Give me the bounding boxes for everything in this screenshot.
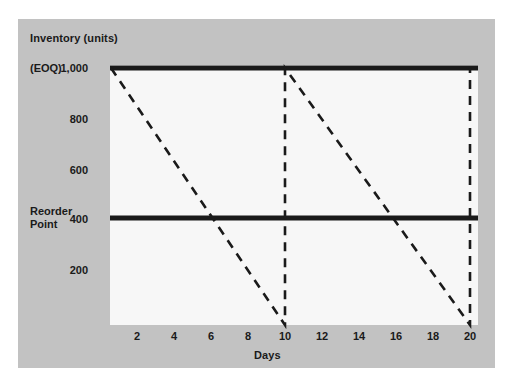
plot-area-background bbox=[110, 65, 478, 325]
inventory-cycle-chart-figure: Inventory (units) (EOQ) Reorder Point 1,… bbox=[0, 0, 509, 386]
plot-area-svg bbox=[0, 0, 509, 386]
